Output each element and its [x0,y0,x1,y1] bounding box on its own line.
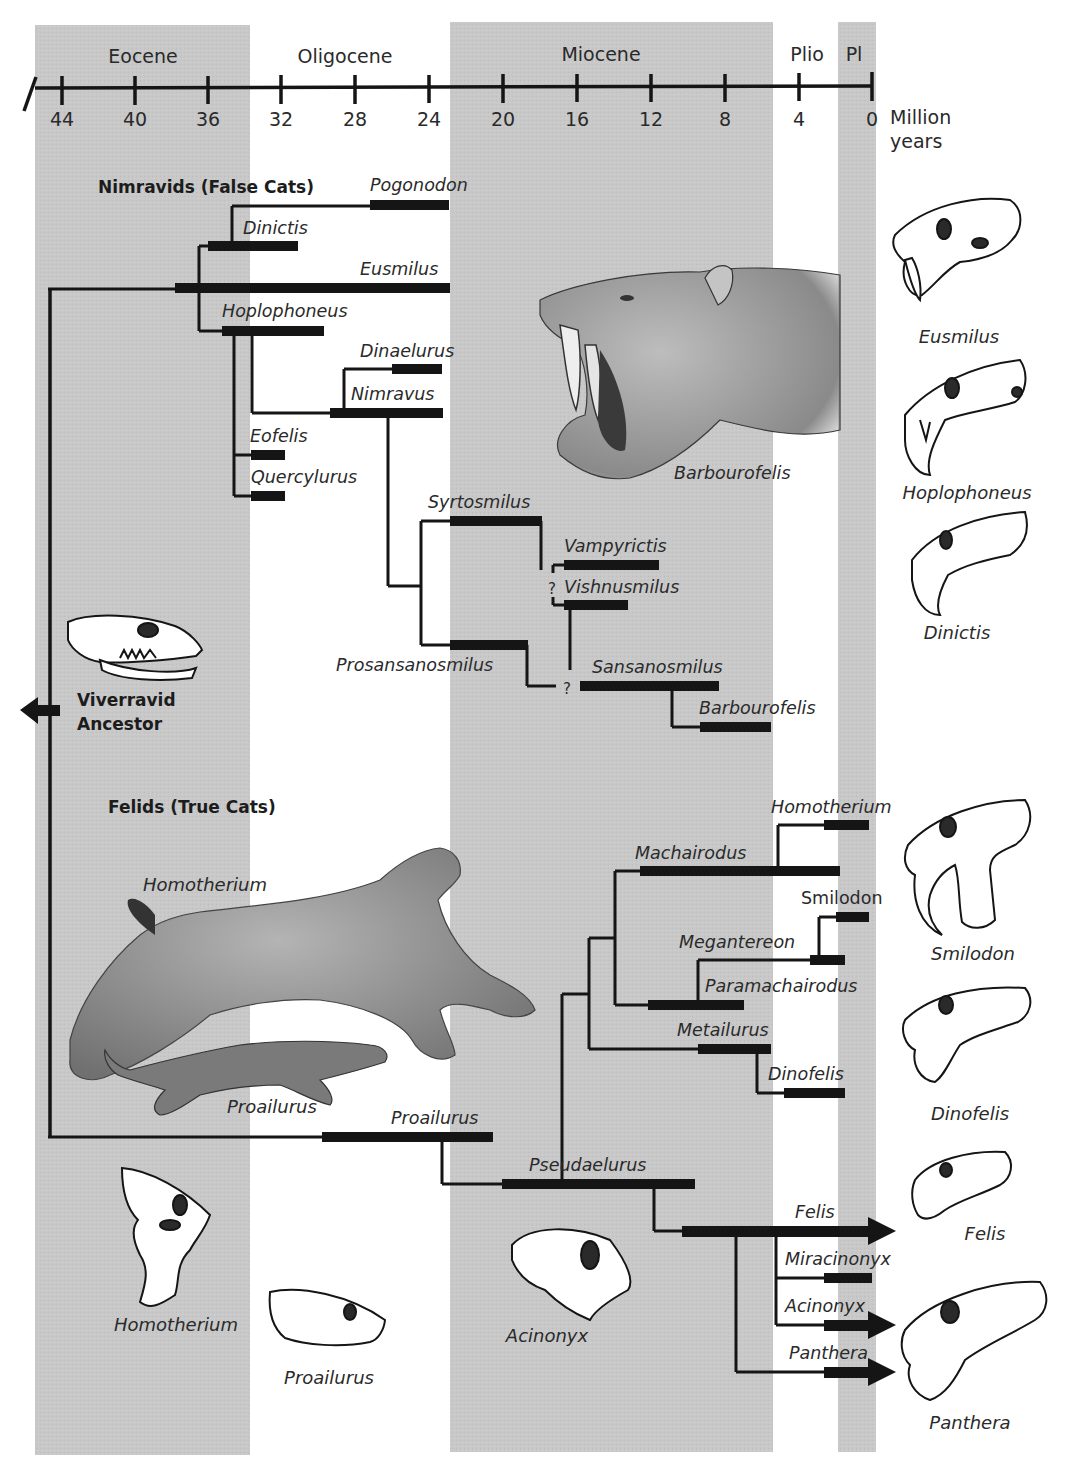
proailurus-illustration-caption: Proailurus [227,1096,317,1117]
epoch-label-pleistocene: Pl [846,43,863,65]
skull-dinofelis: Dinofelis [903,987,1030,1124]
tick-label-0: 0 [866,108,878,130]
taxon-eofelis: Eofelis [250,426,308,446]
taxon-dinaelurus: Dinaelurus [360,341,454,361]
taxon-quercylurus: Quercylurus [251,467,357,487]
tick-label-28: 28 [343,108,367,130]
taxon-dinictis: Dinictis [243,218,308,238]
group-title-nimravids: Nimravids (False Cats) [98,177,314,197]
taxon-vampyrictis: Vampyrictis [564,536,667,556]
taxon-paramachairodus: Paramachairodus [705,976,857,996]
epoch-label-oligocene: Oligocene [297,45,392,67]
taxon-vishnusmilus: Vishnusmilus [564,577,679,597]
taxon-dinofelis: Dinofelis [768,1064,844,1084]
skull-panthera: Panthera [902,1282,1047,1433]
skull-caption-hoplophoneus: Hoplophoneus [902,482,1031,503]
taxon-smilodon: Smilodon [801,888,883,908]
skull-caption-proailurus: Proailurus [284,1367,374,1388]
taxon-homotherium: Homotherium [771,797,892,817]
uncertain-mark-1: ? [548,580,556,598]
axis-unit-line1: Million [890,106,951,128]
panthera-arrow-icon [868,1358,896,1386]
skull-caption-smilodon: Smilodon [931,943,1015,964]
taxon-syrtosmilus: Syrtosmilus [428,492,530,512]
barbourofelis-illustration-caption: Barbourofelis [674,463,791,483]
tick-label-12: 12 [639,108,663,130]
tick-label-32: 32 [269,108,293,130]
epoch-label-miocene: Miocene [561,43,640,65]
ancestor-label-line1: Viverravid [77,690,176,710]
taxon-megantereon: Megantereon [679,932,795,952]
taxon-acinonyx: Acinonyx [784,1296,866,1316]
homotherium-illustration-caption: Homotherium [143,874,267,895]
band-miocene [450,22,773,1452]
taxon-pseudaelurus: Pseudaelurus [529,1155,646,1175]
taxon-pogonodon: Pogonodon [370,175,468,195]
acinonyx-arrow-icon [868,1311,896,1339]
epoch-label-eocene: Eocene [108,45,178,67]
skull-smilodon: Smilodon [905,800,1030,964]
skull-caption-homotherium: Homotherium [114,1314,238,1335]
skull-proailurus: Proailurus [270,1290,385,1388]
felis-arrow-icon [868,1217,896,1245]
taxon-barbourofelis: Barbourofelis [699,698,816,718]
taxon-proailurus: Proailurus [391,1108,478,1128]
skull-caption-dinofelis: Dinofelis [931,1103,1009,1124]
ancestor-label-line2: Ancestor [77,714,163,734]
taxon-nimravus: Nimravus [351,384,434,404]
taxon-machairodus: Machairodus [635,843,746,863]
skull-dinictis: Dinictis [912,512,1027,643]
taxon-eusmilus: Eusmilus [360,259,438,279]
tick-label-20: 20 [491,108,515,130]
axis-break-mark [24,77,36,111]
uncertain-mark-2: ? [563,680,571,698]
tick-label-4: 4 [793,108,805,130]
tick-label-16: 16 [565,108,589,130]
taxon-panthera: Panthera [789,1343,868,1363]
axis-unit-line2: years [890,130,942,152]
skull-felis: Felis [912,1152,1011,1244]
taxon-sansanosmilus: Sansanosmilus [592,657,723,677]
skull-eusmilus: Eusmilus [893,199,1020,347]
tick-label-40: 40 [123,108,147,130]
taxon-prosansanosmilus: Prosansanosmilus [336,655,493,675]
phylogeny-figure: Eocene Oligocene Miocene Plio Pl 44 40 3… [0,0,1071,1469]
tick-label-8: 8 [719,108,731,130]
taxon-metailurus: Metailurus [677,1020,769,1040]
taxon-miracinonyx: Miracinonyx [785,1249,892,1269]
skull-hoplophoneus: Hoplophoneus [902,360,1031,503]
epoch-label-pliocene: Plio [790,43,824,65]
skull-caption-felis: Felis [965,1223,1006,1244]
tick-label-24: 24 [417,108,441,130]
tick-label-44: 44 [50,108,74,130]
taxon-felis: Felis [795,1202,835,1222]
tick-label-36: 36 [196,108,220,130]
skull-caption-acinonyx: Acinonyx [505,1325,589,1346]
skull-caption-dinictis: Dinictis [924,622,991,643]
skull-caption-panthera: Panthera [929,1412,1010,1433]
taxon-hoplophoneus: Hoplophoneus [222,301,348,321]
group-title-felids: Felids (True Cats) [108,797,276,817]
skull-caption-eusmilus: Eusmilus [919,326,999,347]
